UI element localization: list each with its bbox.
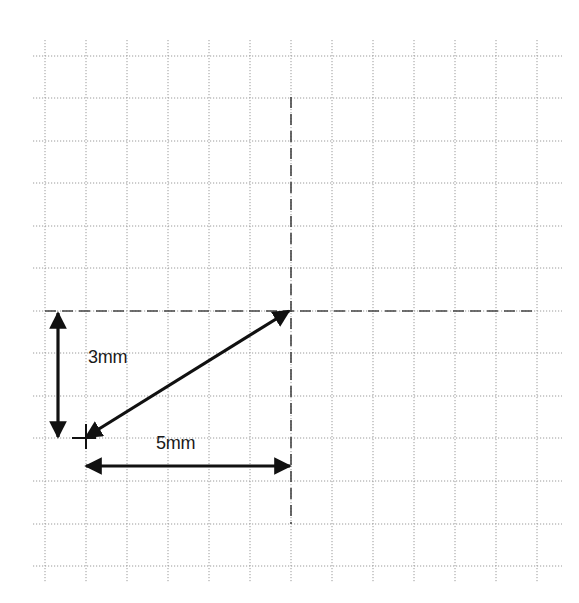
horizontal-dimension-label: 5mm [156,434,195,452]
diagram-canvas: 3mm 5mm [0,0,579,603]
vertical-dimension-label: 3mm [88,348,127,366]
diagonal-vector-arrow [86,311,289,437]
measurement-overlay [0,0,579,603]
origin-cross-marker [72,424,96,449]
